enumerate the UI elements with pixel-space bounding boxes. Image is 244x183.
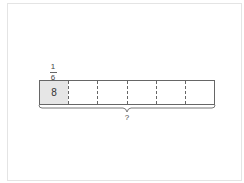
tape-cell [97,81,126,104]
total-unknown-label: ? [122,113,132,122]
tape-cell [68,81,97,104]
tape-cell [156,81,185,104]
tape-bar: 8 [39,80,215,105]
tape-cell [185,81,214,104]
fraction-numerator: 1 [51,62,55,71]
tape-cell [127,81,156,104]
tape-cell-shaded: 8 [40,81,68,104]
